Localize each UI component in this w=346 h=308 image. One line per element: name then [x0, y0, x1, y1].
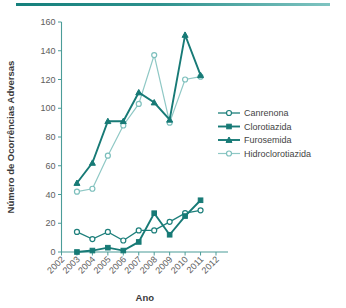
series-canrenona — [74, 208, 203, 243]
data-point-marker — [136, 228, 141, 233]
legend-label-furosemida: Furosemida — [244, 135, 292, 145]
data-point-marker — [136, 89, 142, 94]
y-axis-title: Número de Ocorrências Adversas — [5, 61, 16, 214]
y-tick-label: 120 — [40, 75, 55, 85]
series-line — [77, 55, 201, 192]
data-point-marker — [90, 186, 95, 191]
data-point-marker — [90, 248, 95, 253]
data-point-marker — [167, 232, 172, 237]
data-point-marker — [152, 53, 157, 58]
y-tick-label: 100 — [40, 103, 55, 113]
series-line — [77, 210, 201, 240]
data-point-marker — [227, 124, 232, 129]
legend-label-hidroclorotiazida: Hidroclorotiazida — [244, 149, 311, 159]
data-point-marker — [74, 189, 79, 194]
data-point-marker — [121, 238, 126, 243]
data-point-marker — [227, 111, 232, 116]
data-point-marker — [74, 229, 79, 234]
data-point-marker — [183, 214, 188, 219]
legend-label-canrenona: Canrenona — [244, 108, 289, 118]
chart-legend: CanrenonaClorotiazidaFurosemidaHidroclor… — [218, 108, 311, 159]
series-furosemida — [74, 32, 204, 185]
data-point-marker — [75, 250, 80, 255]
data-point-marker — [105, 229, 110, 234]
data-point-marker — [136, 240, 141, 245]
y-tick-label: 140 — [40, 46, 55, 56]
series-clorotiazida — [75, 198, 203, 254]
data-point-marker — [152, 228, 157, 233]
data-point-marker — [105, 153, 110, 158]
figure-container: 0204060801001201401602002200320042005200… — [0, 0, 346, 308]
series-line — [77, 35, 201, 183]
data-point-marker — [89, 160, 95, 165]
data-point-marker — [90, 237, 95, 242]
data-point-marker — [106, 245, 111, 250]
data-point-marker — [152, 211, 157, 216]
y-tick-label: 20 — [45, 218, 55, 228]
data-point-marker — [198, 208, 203, 213]
y-tick-label: 0 — [50, 247, 55, 257]
data-point-marker — [121, 248, 126, 253]
y-tick-label: 80 — [45, 132, 55, 142]
data-point-marker — [182, 32, 188, 37]
y-tick-label: 60 — [45, 161, 55, 171]
data-point-marker — [167, 219, 172, 224]
series-hidroclorotiazida — [74, 53, 203, 195]
data-point-marker — [227, 151, 232, 156]
data-point-marker — [136, 101, 141, 106]
x-tick-label: 2012 — [200, 254, 221, 275]
y-tick-label: 40 — [45, 190, 55, 200]
y-tick-label: 160 — [40, 17, 55, 27]
x-axis-title: Ano — [136, 292, 155, 303]
data-point-marker — [183, 77, 188, 82]
data-point-marker — [198, 198, 203, 203]
legend-label-clorotiazida: Clorotiazida — [244, 122, 292, 132]
line-chart: 0204060801001201401602002200320042005200… — [0, 0, 346, 308]
